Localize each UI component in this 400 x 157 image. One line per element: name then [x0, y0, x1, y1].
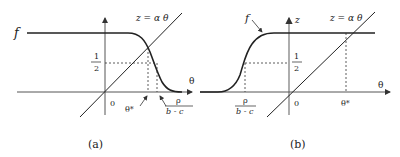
rho-num: ρ: [176, 96, 181, 105]
rho-den: b - c: [236, 107, 254, 116]
theta-star-label: θ*: [125, 105, 134, 114]
origin-label: 0: [110, 99, 115, 108]
half-den: 2: [294, 64, 299, 73]
line-label: z = α θ: [329, 13, 363, 23]
line-label: z = α θ: [135, 13, 169, 23]
curve-label: f: [13, 25, 21, 40]
half-den: 2: [94, 64, 99, 73]
rho-num: ρ: [243, 96, 248, 105]
caption: (a): [88, 138, 103, 151]
x-axis-label: θ: [378, 80, 383, 90]
z-line: [267, 12, 375, 117]
curve-label: f: [244, 12, 251, 25]
rho-arrow: [160, 96, 166, 106]
rho-den: b - c: [166, 107, 184, 116]
f-pointer-arrow: [252, 20, 262, 32]
y-axis-label: z: [294, 15, 300, 25]
theta-star-label: θ*: [341, 99, 350, 108]
diagram-canvas: f z = α θ 1 2 θ 0 θ* ρ b - c (a) f z z =…: [0, 0, 400, 157]
theta-star-arrow: [140, 96, 147, 106]
panel-b: f z z = α θ 1 2 θ 0 θ* ρ b - c (b): [200, 12, 390, 151]
panel-a: f z = α θ 1 2 θ 0 θ* ρ b - c (a): [13, 13, 194, 151]
origin-label: 0: [294, 99, 299, 108]
half-num: 1: [94, 52, 99, 61]
half-num: 1: [294, 52, 299, 61]
caption: (b): [290, 138, 306, 151]
x-axis-label: θ: [189, 76, 194, 86]
f-curve: [200, 33, 375, 92]
